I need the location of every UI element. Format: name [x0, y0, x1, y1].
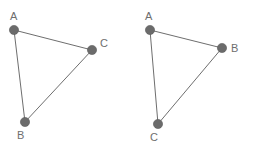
vertex-label-left-a: A [10, 10, 18, 22]
vertex-dot-right-b[interactable] [217, 43, 226, 52]
vertex-label-left-b: B [17, 129, 24, 141]
vertex-dot-left-a[interactable] [9, 25, 18, 34]
canvas-background [0, 0, 256, 145]
vertex-label-right-b: B [231, 42, 238, 54]
vertex-dot-right-c[interactable] [153, 119, 162, 128]
vertex-dot-left-c[interactable] [87, 45, 96, 54]
vertex-label-left-c: C [100, 37, 108, 49]
vertex-label-right-c: C [150, 131, 158, 143]
vertex-label-right-a: A [145, 10, 153, 22]
vertex-dot-right-a[interactable] [145, 25, 154, 34]
vertex-dot-left-b[interactable] [20, 117, 29, 126]
geometry-figure-canvas: A B C A B C [0, 0, 256, 145]
